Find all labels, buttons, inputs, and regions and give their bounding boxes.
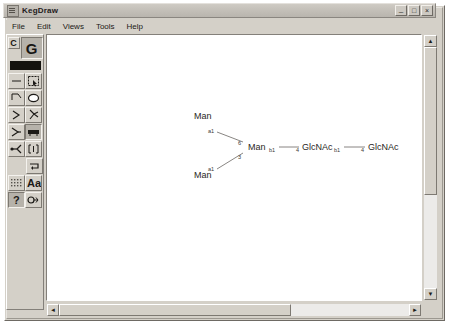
hexagon-ring-icon	[26, 91, 41, 105]
app-icon	[7, 5, 19, 17]
tool-row-3	[7, 107, 43, 124]
linkage-position-man-upper: 6	[238, 140, 241, 146]
text-aa-icon: Aa	[26, 176, 41, 190]
node-circle-icon	[26, 193, 41, 207]
help-tool[interactable]: ?	[8, 192, 25, 208]
mode-compound-button[interactable]: C	[8, 37, 20, 49]
mode-compound-label: C	[9, 38, 19, 48]
mode-glycan-label: G	[22, 38, 42, 58]
scroll-up-button[interactable]: ▲	[424, 35, 437, 47]
lasso-tool[interactable]	[25, 107, 42, 123]
bracket-tool[interactable]	[25, 141, 42, 157]
y-fork-icon	[9, 125, 24, 139]
residue-label-man-upper: Man	[194, 111, 212, 121]
lasso-icon	[26, 108, 41, 122]
repeat-arrow-icon	[27, 159, 42, 173]
arrow-fork-icon	[9, 142, 24, 156]
tool-row-6	[7, 158, 43, 175]
scroll-left-icon: ◄	[50, 307, 56, 313]
scroll-up-icon: ▲	[428, 38, 434, 44]
y-branch-tool[interactable]	[8, 124, 25, 140]
minimize-icon: –	[396, 7, 406, 16]
menu-item-file[interactable]: File	[6, 21, 31, 33]
filled-block-icon	[26, 125, 41, 139]
scroll-down-icon: ▼	[428, 291, 434, 297]
bond-angle-tool[interactable]	[8, 90, 25, 106]
window-controls: – □ ×	[395, 5, 433, 16]
mode-indicator-bar	[10, 61, 41, 70]
menu-item-help[interactable]: Help	[121, 21, 149, 33]
linkage-anomer-glcnac1: b1	[334, 147, 340, 153]
branch-tool[interactable]	[8, 107, 25, 123]
horizontal-scrollbar[interactable]: ◄ ►	[46, 303, 422, 317]
menu-item-tools[interactable]: Tools	[90, 21, 121, 33]
menu-item-views[interactable]: Views	[57, 21, 90, 33]
tool-row-8: ?	[7, 192, 43, 209]
maximize-button[interactable]: □	[408, 5, 420, 16]
svg-text:Aa: Aa	[27, 177, 41, 189]
block-tool[interactable]	[25, 124, 42, 140]
scroll-right-button[interactable]: ►	[409, 304, 421, 316]
single-bond-tool[interactable]	[8, 73, 25, 89]
mode-glycan-button[interactable]: G	[21, 37, 43, 59]
linkage-anomer-man-upper: a1	[208, 128, 214, 134]
menu-item-edit[interactable]: Edit	[31, 21, 57, 33]
close-icon: ×	[422, 6, 432, 15]
window-title: KegDraw	[22, 6, 58, 15]
horizontal-scroll-thumb[interactable]	[59, 304, 291, 316]
minimize-button[interactable]: –	[395, 5, 407, 16]
corner-bond-icon	[9, 91, 24, 105]
linkage-anomer-core: b1	[269, 147, 275, 153]
arrow-branch-tool[interactable]	[8, 141, 25, 157]
client-area: C G	[6, 34, 438, 317]
glycan-structure: Man Man Man GlcNAc GlcNAc a1 6 a1 3 b1 4…	[47, 35, 422, 301]
vertical-scrollbar[interactable]: ▲ ▼	[423, 34, 438, 301]
menu-bar: File Edit Views Tools Help	[6, 20, 433, 34]
text-tool[interactable]: Aa	[25, 175, 42, 191]
vertical-scroll-thumb[interactable]	[424, 47, 437, 195]
select-rectangle-tool[interactable]	[25, 73, 42, 89]
residue-label-man-core: Man	[248, 142, 266, 152]
scroll-left-button[interactable]: ◄	[47, 304, 59, 316]
node-tool[interactable]	[25, 192, 42, 208]
linkage-position-glcnac1: 4	[361, 147, 364, 153]
kegdraw-window: KegDraw – □ × File Edit Views Tools Help	[0, 0, 449, 326]
drawing-canvas[interactable]: Man Man Man GlcNAc GlcNAc a1 6 a1 3 b1 4…	[46, 34, 422, 301]
dashed-rectangle-icon	[26, 74, 41, 88]
tool-row-5	[7, 141, 43, 158]
linkage-position-core: 4	[296, 147, 299, 153]
svg-text:?: ?	[13, 194, 20, 206]
bracket-icon	[26, 142, 41, 156]
linkage-anomer-man-lower: a1	[208, 166, 214, 172]
tool-row-1	[7, 73, 43, 90]
grid-tool[interactable]	[8, 175, 25, 191]
residue-label-glcnac-2: GlcNAc	[368, 142, 399, 152]
tool-row-7: Aa	[7, 175, 43, 192]
tool-row-2	[7, 90, 43, 107]
scrollbar-corner	[423, 303, 438, 317]
scroll-down-button[interactable]: ▼	[424, 288, 437, 300]
scroll-right-icon: ►	[412, 307, 418, 313]
ring-tool[interactable]	[25, 90, 42, 106]
repeat-tool[interactable]	[26, 158, 43, 174]
canvas-area: Man Man Man GlcNAc GlcNAc a1 6 a1 3 b1 4…	[46, 34, 438, 317]
question-mark-icon: ?	[9, 193, 24, 207]
branch-arrow-icon	[9, 108, 24, 122]
grid-icon	[9, 176, 24, 190]
title-bar[interactable]: KegDraw – □ ×	[3, 3, 436, 18]
residue-label-glcnac-1: GlcNAc	[302, 142, 333, 152]
close-button[interactable]: ×	[421, 5, 433, 16]
tool-row-4	[7, 124, 43, 141]
tool-palette: C G	[6, 34, 44, 310]
maximize-icon: □	[409, 6, 419, 15]
horizontal-line-icon	[9, 74, 24, 88]
mode-selector: C G	[7, 37, 43, 60]
linkage-position-man-lower: 3	[238, 154, 241, 160]
